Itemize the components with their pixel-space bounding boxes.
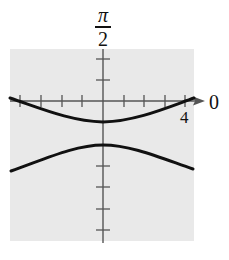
axis-label-pi-over-2: π 2: [92, 6, 114, 48]
polar-plot: [0, 0, 229, 260]
axis-label-zero: 0: [209, 92, 219, 112]
polar-graph-figure: π 2 0 4: [0, 0, 229, 260]
pi-denominator: 2: [92, 30, 114, 48]
tick-label-4: 4: [180, 109, 189, 126]
pi-numerator: π: [92, 6, 114, 25]
